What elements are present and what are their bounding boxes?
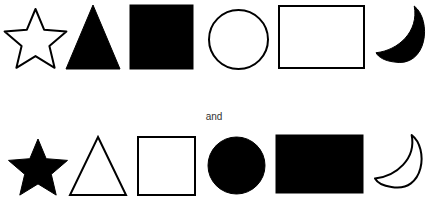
filled-rectangle-shape	[276, 135, 363, 193]
outlined-circle-shape	[209, 10, 268, 69]
filled-square-shape	[130, 5, 193, 69]
connector-text: and	[0, 111, 428, 122]
filled-triangle-shape	[66, 5, 120, 69]
outlined-star-shape	[5, 9, 67, 68]
shape-figure	[0, 0, 428, 205]
filled-star-shape	[9, 139, 68, 195]
top-row	[5, 5, 425, 69]
outlined-triangle-shape	[70, 137, 126, 195]
outlined-crescent-moon-shape	[375, 135, 422, 188]
filled-crescent-moon-shape	[376, 6, 425, 63]
outlined-square-shape	[138, 137, 195, 195]
filled-circle-shape	[208, 137, 265, 194]
outlined-rectangle-shape	[279, 6, 364, 68]
bottom-row	[9, 135, 422, 195]
